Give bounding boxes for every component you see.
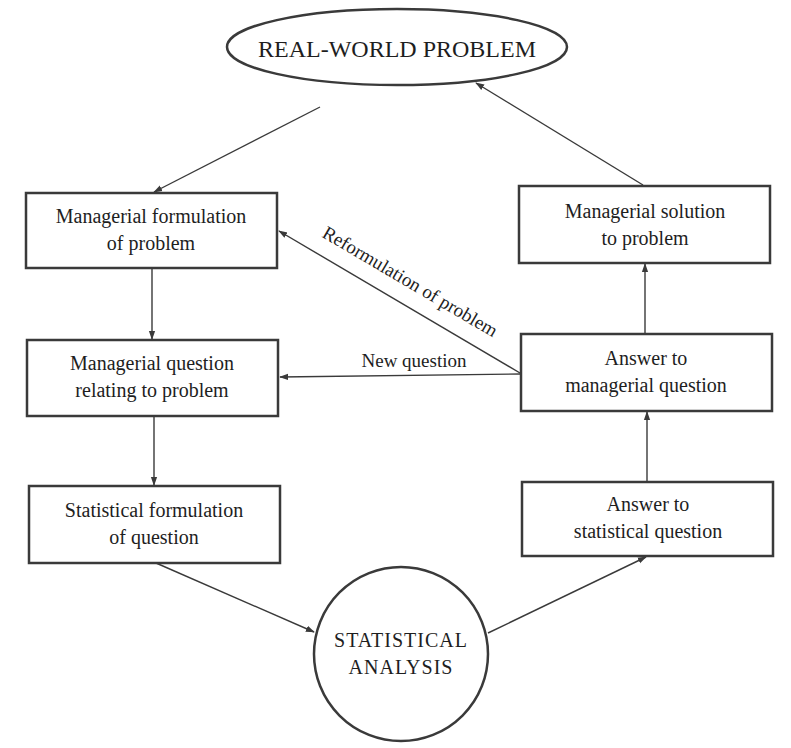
box-managerial-question: Managerial question relating to problem [27, 340, 278, 416]
statistical-analysis-label-line: STATISTICAL [334, 629, 468, 651]
arrow-new-question [280, 374, 520, 377]
box-label-line: managerial question [565, 374, 727, 397]
box-label-line: Managerial solution [565, 200, 726, 223]
box-label-line: of question [109, 526, 198, 549]
box-statistical-formulation: Statistical formulation of question [29, 486, 280, 563]
box-label-line: Managerial question [70, 352, 234, 375]
box-label-line: Answer to [605, 347, 688, 369]
arrow-problem-to-formulation [154, 107, 320, 192]
arrow-analysis-to-statistical-answer [488, 557, 646, 633]
new-question-label: New question [361, 350, 467, 371]
flow-diagram: REAL-WORLD PROBLEM Managerial formulatio… [0, 0, 791, 748]
box-label-line: statistical question [574, 520, 722, 543]
box-managerial-formulation: Managerial formulation of problem [26, 193, 277, 268]
box-label-line: Managerial formulation [56, 205, 247, 228]
box-answer-managerial: Answer to managerial question [521, 334, 772, 411]
arrow-formulation-to-analysis [156, 563, 314, 632]
real-world-problem-label: REAL-WORLD PROBLEM [258, 36, 536, 62]
statistical-analysis-label-line: ANALYSIS [349, 656, 454, 678]
statistical-analysis-node: STATISTICAL ANALYSIS [314, 567, 488, 741]
reformulation-label: Reformulation of problem [319, 222, 502, 341]
box-label-line: of problem [107, 232, 196, 255]
box-label-line: relating to problem [75, 379, 229, 402]
real-world-problem-node: REAL-WORLD PROBLEM [227, 9, 567, 85]
arrow-solution-to-problem [476, 83, 643, 185]
box-answer-statistical: Answer to statistical question [522, 482, 773, 556]
box-label-line: to problem [601, 227, 689, 250]
box-label-line: Statistical formulation [65, 499, 243, 521]
box-label-line: Answer to [607, 493, 690, 515]
box-managerial-solution: Managerial solution to problem [519, 186, 770, 263]
